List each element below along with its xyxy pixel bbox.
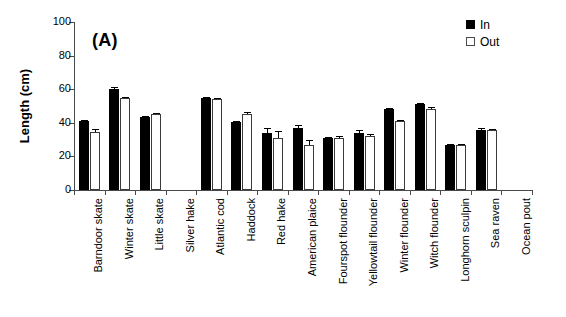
x-tick xyxy=(440,190,441,195)
x-tick xyxy=(318,190,319,195)
x-tick-label: Haddock xyxy=(246,198,257,241)
x-tick-label: Sea raven xyxy=(490,198,501,248)
x-tick xyxy=(379,190,380,195)
x-tick xyxy=(135,190,136,195)
x-tick-label: Fourspot flounder xyxy=(338,198,349,284)
x-tick xyxy=(410,190,411,195)
x-tick-label: American plaice xyxy=(307,198,318,276)
x-tick-label: Little skate xyxy=(154,198,165,251)
y-tick-label: 80 xyxy=(59,49,71,62)
x-tick xyxy=(105,190,106,195)
x-tick-label: Atlantic cod xyxy=(215,198,226,255)
bar-group xyxy=(74,22,532,190)
x-tick xyxy=(288,190,289,195)
y-tick-label: 20 xyxy=(59,149,71,162)
x-tick xyxy=(227,190,228,195)
x-tick-label: Ocean pout xyxy=(521,198,532,255)
x-tick-label: Winter skate xyxy=(124,198,135,259)
x-tick-label: Witch flounder xyxy=(429,198,440,268)
x-tick xyxy=(501,190,502,195)
x-tick-label: Yellowtail flounder xyxy=(368,198,379,286)
x-tick-label: Barndoor skate xyxy=(93,198,104,273)
y-tick-label: 0 xyxy=(65,183,71,196)
y-tick-label: 100 xyxy=(53,15,71,28)
x-tick-label: Red hake xyxy=(276,198,287,245)
x-tick xyxy=(166,190,167,195)
x-tick-label: Longhorn sculpin xyxy=(460,198,471,282)
x-tick xyxy=(257,190,258,195)
y-axis-label-text: Length (cm) xyxy=(17,69,32,143)
plot-area: 020406080100 Barndoor skateWinter skateL… xyxy=(74,22,532,190)
chart-figure: Length (cm) (A) In Out 020406080100 Barn… xyxy=(0,0,566,317)
x-tick xyxy=(349,190,350,195)
x-tick-label: Winter flounder xyxy=(399,198,410,273)
x-tick xyxy=(74,190,75,195)
x-tick xyxy=(196,190,197,195)
x-axis-line xyxy=(74,190,532,191)
x-tick xyxy=(471,190,472,195)
x-tick-label: Silver hake xyxy=(185,198,196,252)
y-axis-label: Length (cm) xyxy=(14,22,34,190)
y-tick-label: 40 xyxy=(59,116,71,129)
y-tick-label: 60 xyxy=(59,82,71,95)
x-tick xyxy=(532,190,533,195)
